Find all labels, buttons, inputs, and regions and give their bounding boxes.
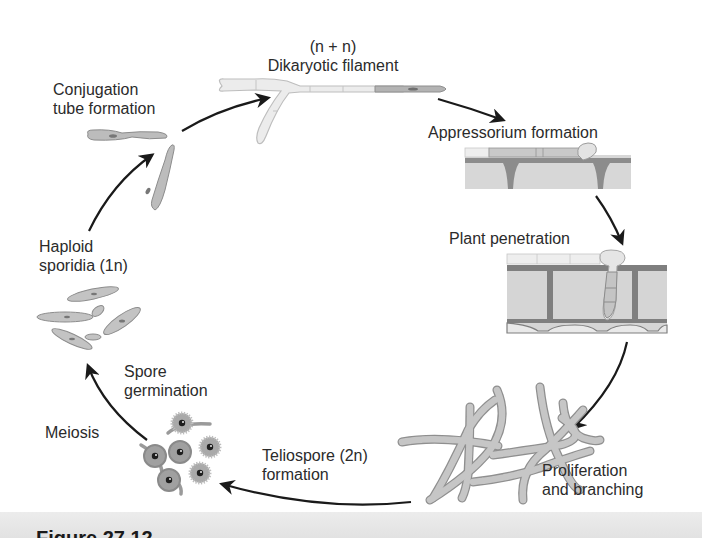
teliospore xyxy=(144,445,166,467)
teliospore xyxy=(190,463,210,483)
life-cycle-diagram: (n + n) Dikaryotic filament Appressorium… xyxy=(0,0,702,538)
label-conjugation-tube: Conjugation tube formation xyxy=(53,80,155,118)
arrow-appressorium-to-penetration xyxy=(596,196,622,243)
label-meiosis: Meiosis xyxy=(45,423,99,442)
label-proliferation-branching: Proliferation and branching xyxy=(542,461,643,499)
sporidium xyxy=(67,284,120,305)
plant-penetration-illustration xyxy=(507,250,667,333)
teliospore xyxy=(169,441,191,463)
label-line2: germination xyxy=(124,381,208,400)
label-line1: Teliospore (2n) xyxy=(262,446,368,465)
arrow-dikaryotic-to-appressorium xyxy=(438,99,503,120)
label-dikaryotic-filament: (n + n) Dikaryotic filament xyxy=(248,37,418,75)
arrow-proliferation-to-teliospore xyxy=(222,484,411,505)
haploid-sporidia-illustration xyxy=(37,284,143,353)
label-haploid-sporidia: Haploid sporidia (1n) xyxy=(39,237,128,275)
label-line2: tube formation xyxy=(53,99,155,118)
label-line2: and branching xyxy=(542,480,643,499)
appressorium-illustration xyxy=(465,143,631,189)
arrow-conjugation-to-dikaryotic xyxy=(182,98,268,131)
teliospores-illustration xyxy=(141,413,220,494)
label-name: Dikaryotic filament xyxy=(248,56,418,75)
teliospore xyxy=(172,413,192,433)
conjugation-cells-illustration xyxy=(88,130,175,210)
label-line1: Haploid xyxy=(39,237,128,256)
label-line2: formation xyxy=(262,465,368,484)
dikaryotic-filament-illustration xyxy=(219,79,446,144)
label-text: Meiosis xyxy=(45,423,99,442)
label-line1: Spore xyxy=(124,362,208,381)
label-teliospore-formation: Teliospore (2n) formation xyxy=(262,446,368,484)
teliospore xyxy=(158,469,180,491)
label-line1: Conjugation xyxy=(53,80,155,99)
figure-caption-partial: Figure 27.12 xyxy=(36,527,153,538)
arrow-sporidia-to-conjugation xyxy=(89,155,152,231)
label-line2: sporidia (1n) xyxy=(39,256,128,275)
label-spore-germination: Spore germination xyxy=(124,362,208,400)
label-appressorium-formation: Appressorium formation xyxy=(428,123,598,142)
label-ploidy: (n + n) xyxy=(248,37,418,56)
label-line1: Proliferation xyxy=(542,461,643,480)
teliospore xyxy=(200,437,220,457)
label-plant-penetration: Plant penetration xyxy=(449,229,570,248)
label-text: Plant penetration xyxy=(449,229,570,248)
label-text: Appressorium formation xyxy=(428,123,598,142)
sporidium xyxy=(37,303,106,322)
